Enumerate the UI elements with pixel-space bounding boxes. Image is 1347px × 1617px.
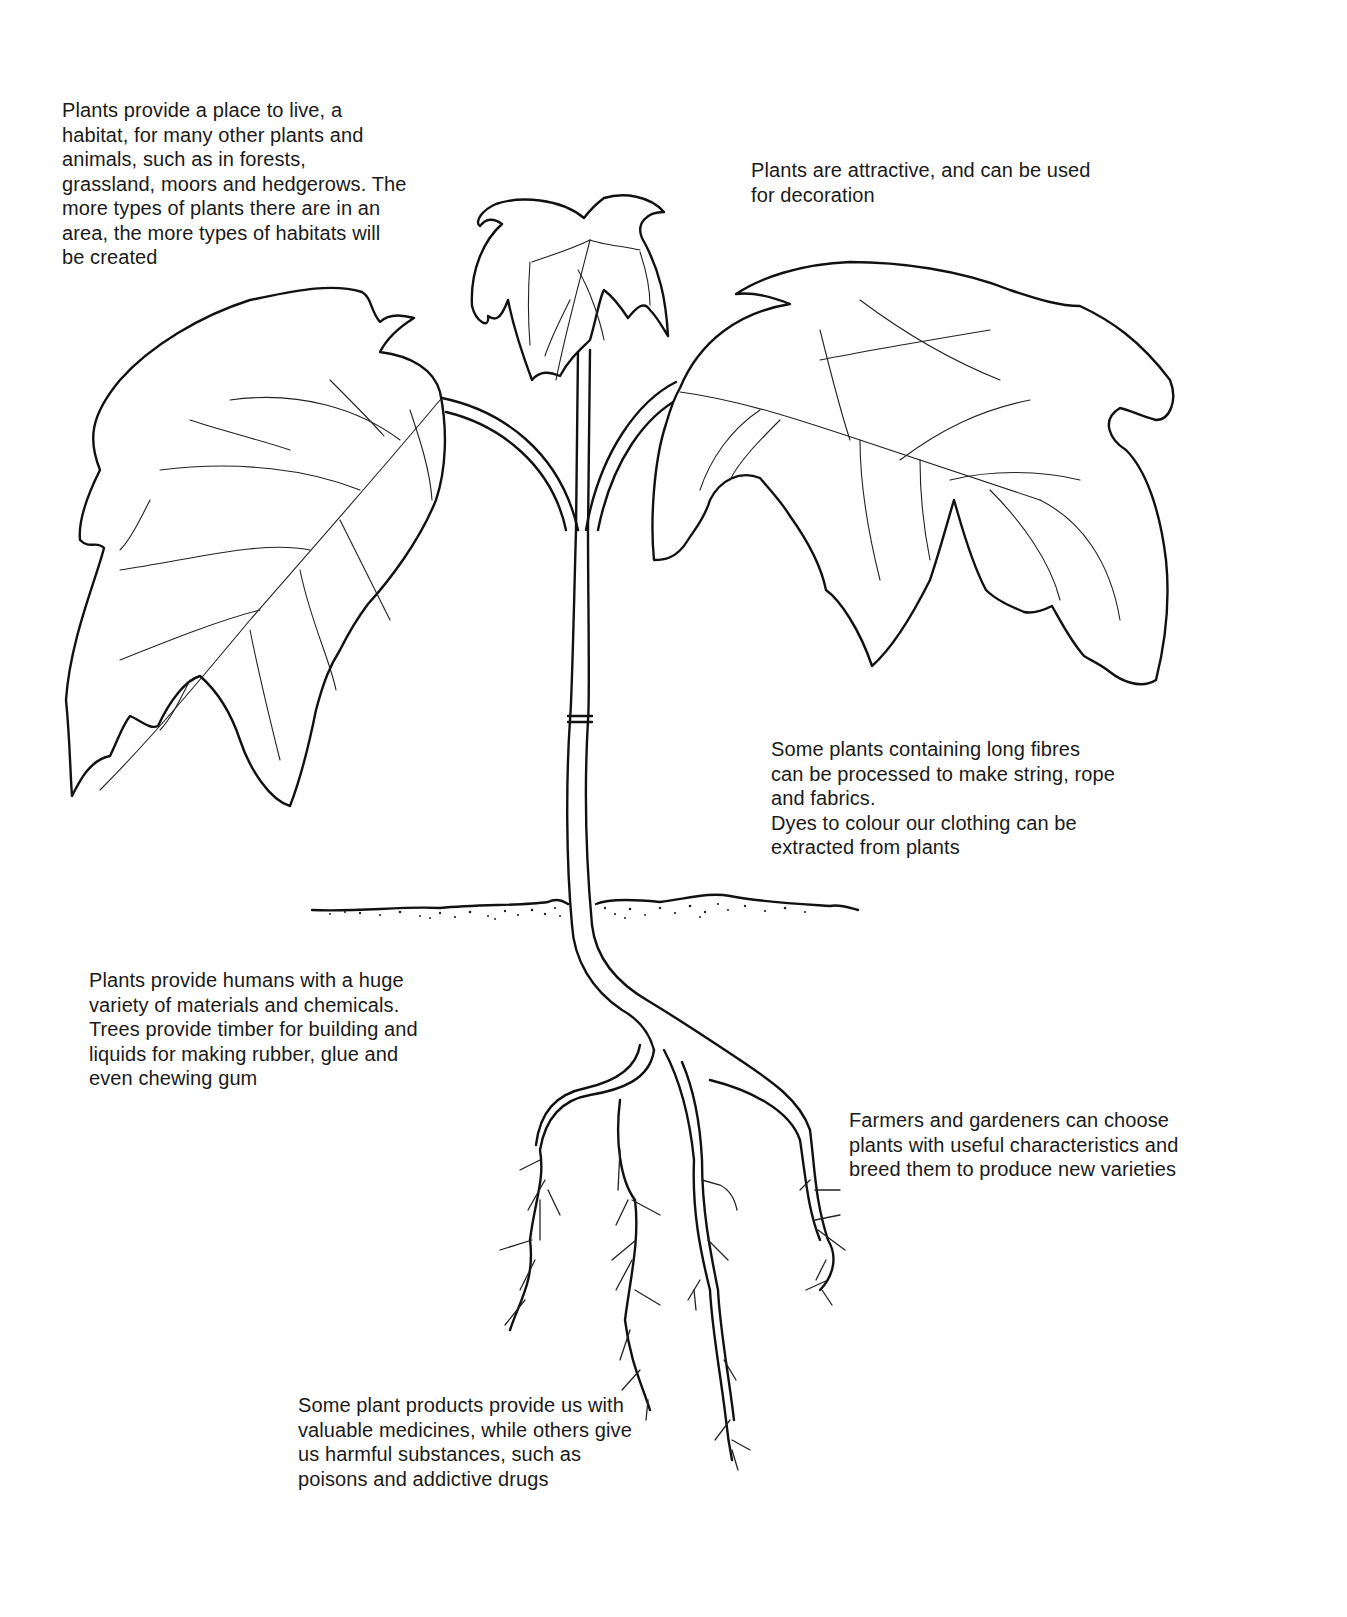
- caption-medicines-and-poisons: Some plant products provide us with valu…: [298, 1393, 718, 1491]
- leaf-stalks: [442, 382, 680, 530]
- caption-fibres-and-dyes: Some plants containing long fibres can b…: [771, 737, 1191, 860]
- caption-decoration: Plants are attractive, and can be used f…: [751, 158, 1171, 207]
- caption-habitat: Plants provide a place to live, a habita…: [62, 98, 482, 270]
- soil-speckles: [329, 903, 806, 920]
- caption-breeding: Farmers and gardeners can choose plants …: [849, 1108, 1269, 1182]
- plant-uses-diagram: Plants provide a place to live, a habita…: [0, 0, 1347, 1617]
- roots: [500, 925, 845, 1470]
- left-leaf: [66, 288, 445, 806]
- soil-line: [312, 895, 858, 920]
- top-leaf: [472, 195, 668, 380]
- caption-materials-and-chemicals: Plants provide humans with a huge variet…: [89, 968, 509, 1091]
- right-leaf: [653, 262, 1174, 684]
- stem: [567, 350, 592, 925]
